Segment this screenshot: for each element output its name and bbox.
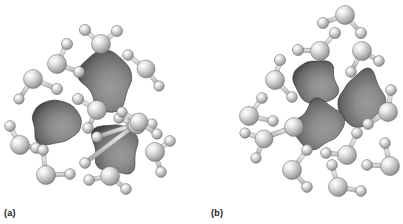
solute-particles-layer bbox=[293, 61, 386, 150]
panel-a-label: (a) bbox=[4, 208, 16, 219]
water-molecule-8 bbox=[283, 145, 313, 193]
water-molecule-12 bbox=[146, 136, 176, 178]
water-molecule-3 bbox=[14, 70, 63, 105]
figure-panel-a: (a) bbox=[0, 0, 201, 224]
water-molecule-2 bbox=[48, 38, 85, 77]
panel-b-label: (b) bbox=[211, 208, 223, 219]
water-molecules-layer bbox=[5, 24, 176, 194]
water-molecule-12 bbox=[240, 128, 273, 163]
water-molecule-5 bbox=[240, 93, 279, 127]
figure-panel-b: (b) bbox=[201, 0, 403, 224]
panel-b-illustration bbox=[201, 0, 403, 196]
figure-root: (a) (b) bbox=[0, 0, 403, 224]
water-molecule-1 bbox=[317, 6, 366, 39]
solute-particle-2 bbox=[32, 100, 81, 145]
water-molecule-9 bbox=[327, 160, 367, 197]
water-molecule-11 bbox=[362, 138, 400, 176]
water-molecule-1 bbox=[79, 24, 122, 53]
water-molecule-9 bbox=[37, 145, 76, 185]
solute-particle-1 bbox=[293, 61, 339, 104]
panel-a-illustration bbox=[0, 0, 201, 196]
water-molecule-2 bbox=[292, 27, 340, 60]
